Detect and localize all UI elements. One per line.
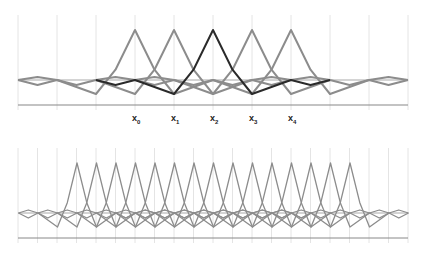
bottom-panel	[18, 148, 409, 243]
node-label: x1	[171, 113, 180, 125]
node-label: x0	[132, 113, 141, 125]
node-label: x3	[249, 113, 258, 125]
node-label: x4	[288, 113, 297, 125]
cardinal-basis-functions-diagram: x0x1x2x3x4	[0, 0, 426, 256]
node-label: x2	[210, 113, 219, 125]
top-panel: x0x1x2x3x4	[18, 15, 408, 125]
